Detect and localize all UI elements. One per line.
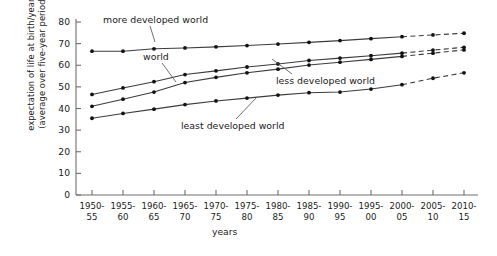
y-tick-label: 0 — [50, 189, 70, 200]
data-point — [121, 97, 125, 101]
data-point — [121, 49, 125, 53]
annotation-leader-line — [272, 59, 292, 74]
data-point — [183, 73, 187, 77]
data-point — [307, 91, 311, 95]
life-expectancy-line-chart: expectation of life at birth/years (aver… — [0, 0, 497, 256]
data-point — [183, 46, 187, 50]
y-tick-label: 50 — [50, 81, 70, 92]
data-point — [462, 71, 466, 75]
data-point — [152, 80, 156, 84]
data-point — [307, 40, 311, 44]
data-point — [152, 90, 156, 94]
data-point — [462, 48, 466, 52]
data-point — [338, 56, 342, 60]
data-point — [307, 59, 311, 63]
y-tick-label: 70 — [50, 38, 70, 49]
data-point — [400, 83, 404, 87]
data-point — [431, 76, 435, 80]
data-point — [276, 93, 280, 97]
data-point — [90, 93, 94, 97]
data-point — [338, 39, 342, 43]
x-tick-label-bottom: 15 — [444, 212, 484, 223]
x-tick-label: 2010-15 — [444, 201, 484, 223]
data-point — [152, 107, 156, 111]
data-point — [338, 60, 342, 64]
series-label-world: world — [143, 51, 169, 62]
y-tick-label: 40 — [50, 103, 70, 114]
data-point — [307, 63, 311, 67]
data-point — [214, 45, 218, 49]
x-axis-title: years — [212, 226, 237, 237]
series-label-more-developed-world: more developed world — [103, 14, 208, 25]
data-point — [245, 44, 249, 48]
y-axis-title-line2: (average over five-year period) — [36, 0, 47, 153]
y-tick-label: 60 — [50, 59, 70, 70]
data-point — [121, 112, 125, 116]
data-point — [276, 67, 280, 71]
data-point — [90, 49, 94, 53]
y-tick-label: 30 — [50, 124, 70, 135]
data-point — [214, 69, 218, 73]
data-point — [276, 42, 280, 46]
data-point — [245, 96, 249, 100]
series-label-least-developed-world: least developed world — [181, 120, 285, 131]
data-point — [369, 54, 373, 58]
y-axis-title-line1: expectation of life at birth/years — [26, 0, 37, 153]
y-tick-label: 80 — [50, 16, 70, 27]
data-point — [369, 37, 373, 41]
data-point — [183, 103, 187, 107]
data-point — [369, 58, 373, 62]
data-point — [400, 54, 404, 58]
data-point — [462, 31, 466, 35]
data-point — [183, 81, 187, 85]
data-point — [431, 51, 435, 55]
data-point — [431, 33, 435, 37]
data-point — [400, 51, 404, 55]
data-point — [400, 35, 404, 39]
series-line-solid — [92, 85, 402, 119]
annotation-leader-lines — [150, 26, 292, 119]
series-label-less-developed-world: less developed world — [276, 75, 375, 86]
annotation-leader-line — [236, 97, 257, 119]
data-point — [214, 75, 218, 79]
y-tick-label: 20 — [50, 146, 70, 157]
data-point — [214, 99, 218, 103]
data-point — [245, 65, 249, 69]
x-tick-label-top: 2010- — [444, 201, 484, 212]
y-axis-title: expectation of life at birth/years (aver… — [26, 0, 47, 153]
data-point — [121, 86, 125, 90]
annotation-leader-line — [150, 26, 155, 42]
data-point — [90, 104, 94, 108]
data-point — [90, 116, 94, 120]
data-point — [245, 71, 249, 75]
data-point — [338, 90, 342, 94]
data-point — [369, 87, 373, 91]
y-tick-label: 10 — [50, 167, 70, 178]
